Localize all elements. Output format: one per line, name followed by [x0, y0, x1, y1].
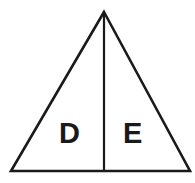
region-label-e: E: [123, 119, 142, 148]
region-label-d: D: [59, 119, 80, 148]
triangle-figure: [0, 0, 195, 183]
diagram-canvas: D E: [0, 0, 195, 183]
